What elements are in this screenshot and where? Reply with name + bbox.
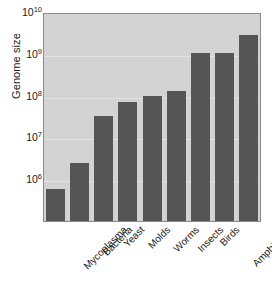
x-axis-tick-labels: MycoplasmaBacteriaYeastMoldsWormsInsects… — [43, 222, 261, 288]
y-axis-tick-6: 106 — [0, 173, 42, 185]
bar-mycoplasma — [46, 189, 65, 222]
y-tick-exponent: 9 — [38, 46, 42, 55]
genome-size-bar-chart: Genome size 1010109108107106 MycoplasmaB… — [0, 0, 272, 288]
bar-bacteria — [70, 163, 89, 221]
bar-mammals — [239, 35, 258, 221]
bar-worms — [143, 96, 162, 221]
x-axis-tick-amphibians: Amphibians — [250, 224, 272, 269]
y-tick-base: 10 — [26, 131, 38, 143]
y-tick-base: 10 — [26, 173, 38, 185]
bar-yeast — [94, 116, 113, 221]
x-axis-tick-molds: Molds — [146, 224, 173, 251]
y-axis-tick-9: 109 — [0, 48, 42, 60]
y-tick-base: 10 — [26, 48, 38, 60]
y-tick-base: 10 — [26, 90, 38, 102]
bar-molds — [118, 102, 137, 221]
bar-birds — [191, 53, 210, 221]
y-axis-tick-7: 107 — [0, 131, 42, 143]
y-axis-tick-10: 1010 — [0, 6, 42, 18]
y-tick-exponent: 6 — [38, 172, 42, 181]
y-axis-tick-labels: 1010109108107106 — [0, 0, 42, 288]
bar-amphibians — [215, 53, 234, 221]
y-tick-exponent: 8 — [38, 88, 42, 97]
plot-area — [43, 13, 261, 222]
x-axis-tick-worms: Worms — [171, 224, 201, 254]
y-tick-base: 10 — [22, 6, 34, 18]
y-tick-exponent: 10 — [34, 5, 42, 14]
y-tick-exponent: 7 — [38, 130, 42, 139]
bar-series — [44, 14, 260, 221]
y-axis-tick-8: 108 — [0, 90, 42, 102]
bar-insects — [167, 91, 186, 221]
